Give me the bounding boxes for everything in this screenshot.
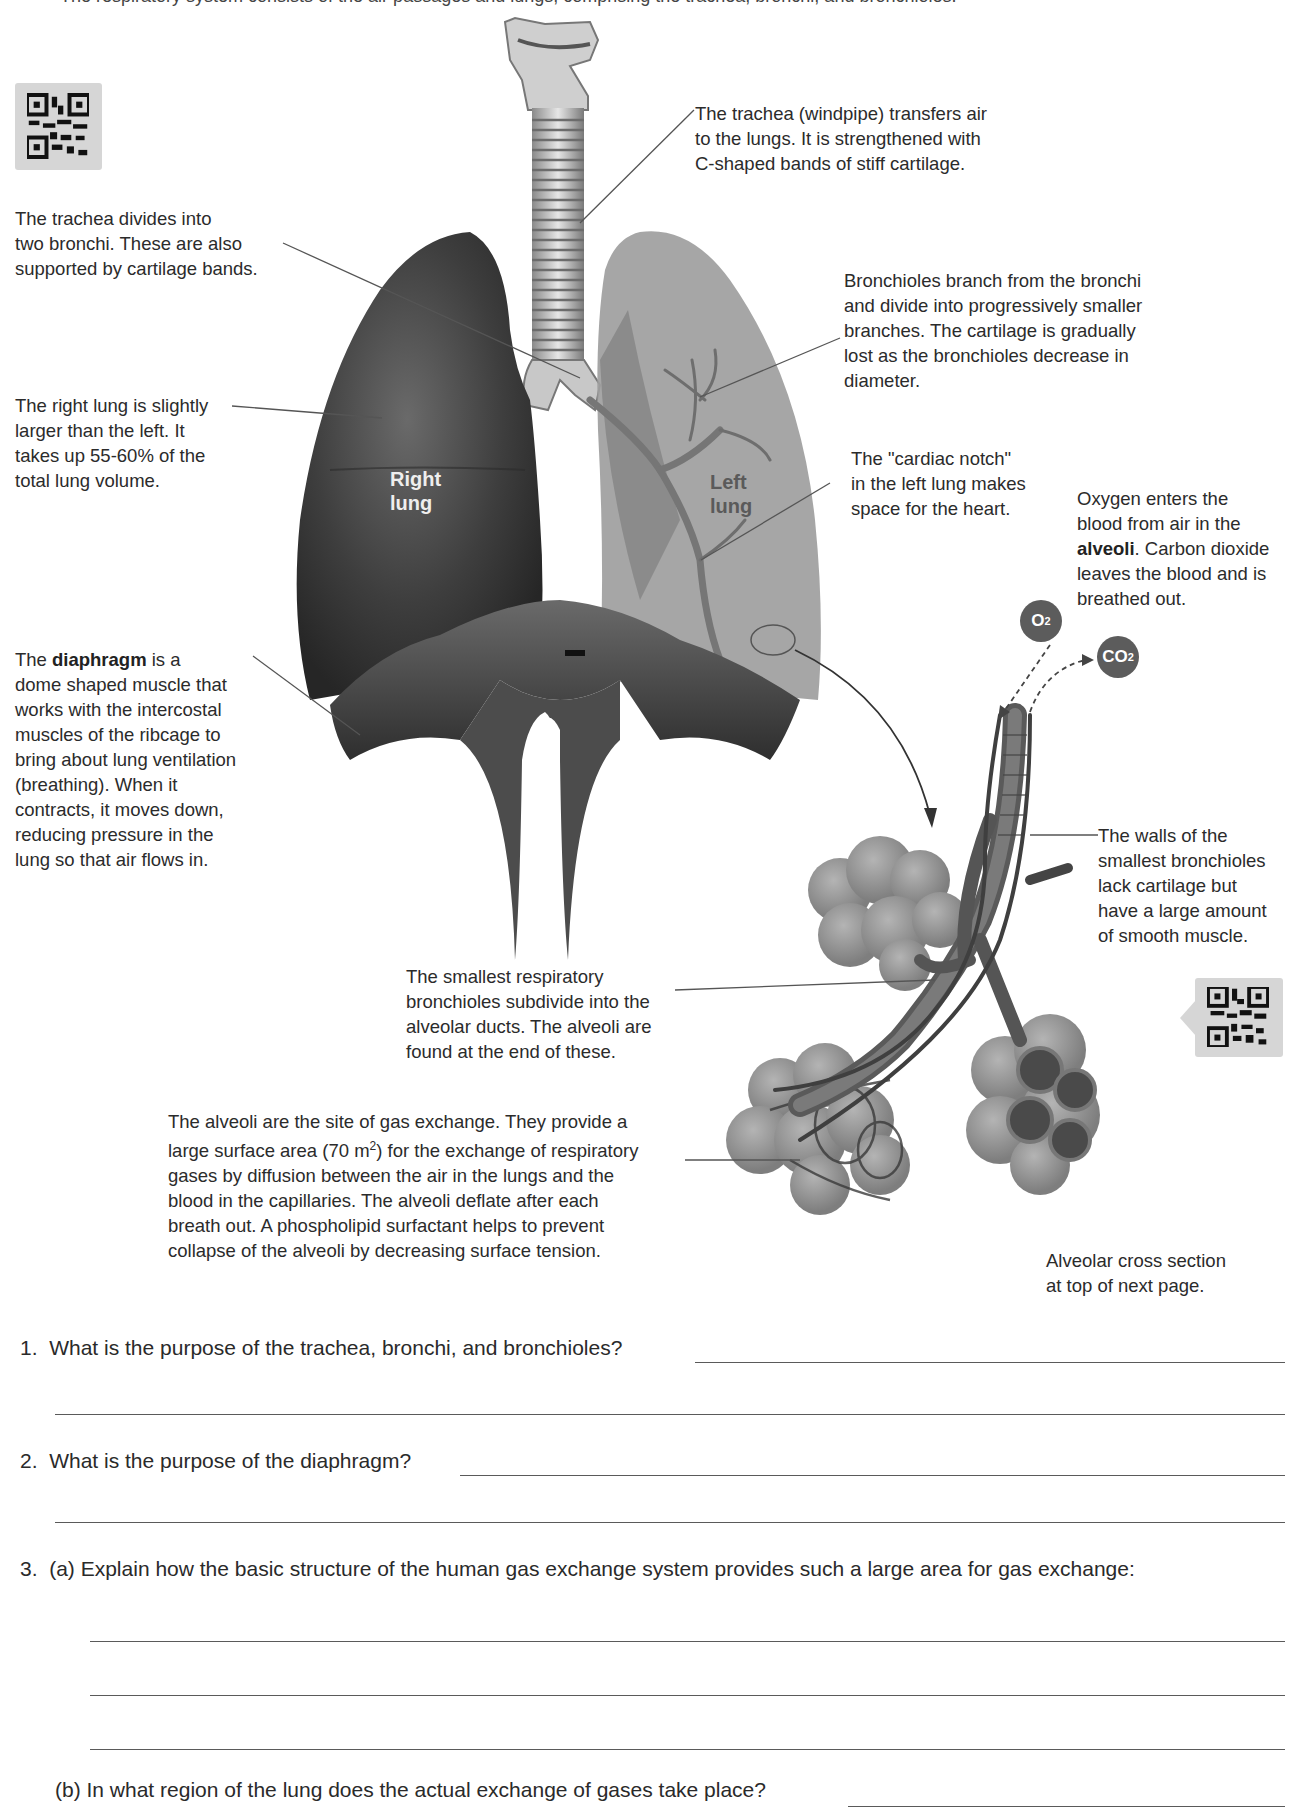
caption-line: The smallest respiratory [406,964,651,989]
question-text: (b) In what region of the lung does the … [55,1778,766,1801]
caption-cardiac-notch: The "cardiac notch" in the left lung mak… [851,446,1026,521]
caption-line: reducing pressure in the [15,822,236,847]
qr-pointer [1180,1000,1196,1036]
caption-line: blood in the capillaries. The alveoli de… [168,1188,638,1213]
question-text: (a) Explain how the basic structure of t… [49,1557,1135,1580]
caption-line: The right lung is slightly [15,393,208,418]
caption-line: total lung volume. [15,468,208,493]
qr-icon [1207,987,1269,1047]
question-3b: (b) In what region of the lung does the … [55,1776,766,1804]
caption-line: collapse of the alveoli by decreasing su… [168,1238,638,1263]
caption-line: leaves the blood and is [1077,561,1269,586]
caption-line: dome shaped muscle that [15,672,236,697]
caption-line: large surface area (70 m2) for the excha… [168,1134,638,1163]
left-lung-label-line1: Left [710,470,752,494]
caption-line: two bronchi. These are also [15,231,258,256]
caption-line: The alveoli are the site of gas exchange… [168,1109,638,1134]
question-text: What is the purpose of the trachea, bron… [49,1336,622,1359]
qr-code-right[interactable] [1195,978,1283,1057]
bold-term-alveoli: alveoli [1077,538,1135,559]
caption-right-lung: The right lung is slightly larger than t… [15,393,208,493]
alveoli-cluster-bottom-right [966,1014,1100,1195]
answer-line-1b[interactable] [55,1414,1285,1415]
caption-bronchioles: Bronchioles branch from the bronchi and … [844,268,1142,393]
caption-line: takes up 55-60% of the [15,443,208,468]
caption-text: large surface area (70 m [168,1140,370,1161]
caption-line: The trachea (windpipe) transfers air [695,101,987,126]
right-lung-label-line2: lung [390,491,441,515]
caption-line: C-shaped bands of stiff cartilage. [695,151,987,176]
caption-respiratory-bronchioles: The smallest respiratory bronchioles sub… [406,964,651,1064]
caption-text: The [15,649,52,670]
caption-line: The trachea divides into [15,206,258,231]
question-number: 2. [20,1449,38,1472]
caption-line: of smooth muscle. [1098,923,1267,948]
caption-line: blood from air in the [1077,511,1269,536]
caption-text: ) for the exchange of respiratory [376,1140,638,1161]
caption-line: found at the end of these. [406,1039,651,1064]
caption-line: supported by cartilage bands. [15,256,258,281]
question-3a: 3. (a) Explain how the basic structure o… [20,1555,1135,1583]
caption-line: breathed out. [1077,586,1269,611]
caption-line: bring about lung ventilation [15,747,236,772]
right-lung-label: Right lung [390,467,441,515]
caption-text: is a [147,649,181,670]
o2-subscript: 2 [1045,615,1051,627]
caption-line: lung so that air flows in. [15,847,236,872]
caption-line: bronchioles subdivide into the [406,989,651,1014]
caption-line: works with the intercostal [15,697,236,722]
answer-line-1a[interactable] [695,1362,1285,1363]
caption-line: smallest bronchioles [1098,848,1267,873]
caption-oxygen-exchange: Oxygen enters the blood from air in the … [1077,486,1269,611]
caption-line: larger than the left. It [15,418,208,443]
question-2: 2. What is the purpose of the diaphragm? [20,1447,411,1475]
caption-line: alveoli. Carbon dioxide [1077,536,1269,561]
caption-text: . Carbon dioxide [1135,538,1270,559]
caption-line: The diaphragm is a [15,647,236,672]
caption-bronchi: The trachea divides into two bronchi. Th… [15,206,258,281]
caption-diaphragm: The diaphragm is a dome shaped muscle th… [15,647,236,872]
caption-line: (breathing). When it [15,772,236,797]
answer-line-3a-2[interactable] [90,1695,1285,1696]
caption-line: contracts, it moves down, [15,797,236,822]
caption-line: space for the heart. [851,496,1026,521]
o2-bubble: O2 [1020,600,1062,642]
question-number: 3. [20,1557,38,1580]
caption-line: to the lungs. It is strengthened with [695,126,987,151]
caption-line: branches. The cartilage is gradually [844,318,1142,343]
answer-line-3a-3[interactable] [90,1749,1285,1750]
answer-line-2b[interactable] [55,1522,1285,1523]
co2-bubble: CO2 [1097,636,1139,678]
caption-line: alveolar ducts. The alveoli are [406,1014,651,1039]
co2-text: CO [1102,647,1128,667]
o2-arrow [1005,645,1050,710]
question-text: What is the purpose of the diaphragm? [49,1449,411,1472]
caption-line: lack cartilage but [1098,873,1267,898]
caption-alveoli: The alveoli are the site of gas exchange… [168,1109,638,1263]
answer-line-2a[interactable] [460,1475,1285,1476]
left-lung-label: Left lung [710,470,752,518]
caption-line: in the left lung makes [851,471,1026,496]
caption-smallest-bronchioles-walls: The walls of the smallest bronchioles la… [1098,823,1267,948]
answer-line-3b[interactable] [848,1806,1285,1807]
caption-line: lost as the bronchioles decrease in [844,343,1142,368]
caption-line: Bronchioles branch from the bronchi [844,268,1142,293]
question-number: 1. [20,1336,38,1359]
caption-line: diameter. [844,368,1142,393]
caption-line: breath out. A phospholipid surfactant he… [168,1213,638,1238]
caption-line: at top of next page. [1046,1273,1226,1298]
answer-line-3a-1[interactable] [90,1641,1285,1642]
co2-subscript: 2 [1128,651,1134,663]
o2-text: O [1031,611,1044,631]
caption-line: Alveolar cross section [1046,1248,1226,1273]
bold-term-diaphragm: diaphragm [52,649,147,670]
caption-line: have a large amount [1098,898,1267,923]
trachea [532,108,584,363]
caption-line: Oxygen enters the [1077,486,1269,511]
caption-line: The "cardiac notch" [851,446,1026,471]
caption-cross-section-note: Alveolar cross section at top of next pa… [1046,1248,1226,1298]
caption-line: muscles of the ribcage to [15,722,236,747]
caption-line: and divide into progressively smaller [844,293,1142,318]
question-1: 1. What is the purpose of the trachea, b… [20,1334,622,1362]
larynx [505,18,598,110]
